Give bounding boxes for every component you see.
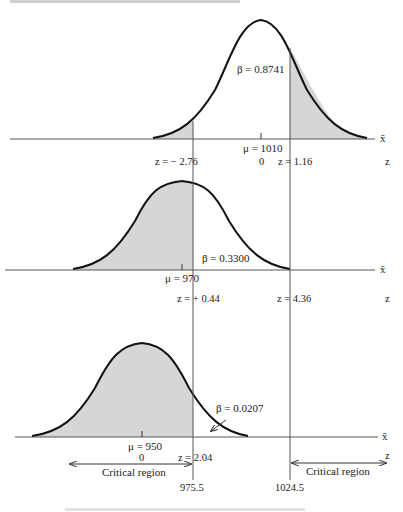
z-label-middle-right: z = 4.36 [277,293,311,305]
boundary-value-right: 1024.5 [275,482,304,494]
z-axis-label-middle: z [385,293,390,305]
mu-label-top: μ = 1010 [243,142,283,154]
normal-curve-top [153,20,367,138]
z-zero-bottom: 0 [139,452,144,464]
beta-label-bottom: β = 0.0207 [216,402,264,414]
z-label-middle-left: z = + 0.44 [177,293,220,305]
mu-label-middle: μ = 970 [165,272,199,284]
beta-shade-right-tail [290,48,367,139]
beta-pointer-arrow [211,420,226,431]
beta-label-middle: β = 0.3300 [202,252,250,264]
z-label-top-left: z = − 2.76 [155,156,198,168]
z-axis-label-top: z [385,156,390,168]
x-axis-label-bottom: x̄ [382,430,388,442]
x-axis-label-middle: x̄ [380,263,386,275]
x-axis-label-top: x̄ [380,132,386,144]
critical-region-left-label: Critical region [102,466,166,478]
boundary-value-left: 975.5 [180,482,204,494]
mu-label-bottom: μ = 950 [128,440,162,452]
z-axis-label-bottom: z [385,450,390,462]
z-zero-top: 0 [259,156,264,168]
panel-bottom [15,343,378,437]
z-label-top-right: z = 1.16 [278,156,312,168]
critical-region-right-label: Critical region [306,465,370,477]
z-label-bottom-right: z = 2.04 [178,452,212,464]
beta-label-top: β = 0.8741 [237,63,285,75]
panel-middle [5,181,375,270]
